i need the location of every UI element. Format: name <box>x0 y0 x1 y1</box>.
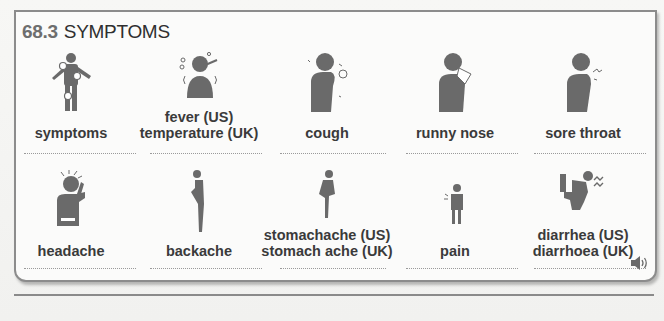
answer-line[interactable] <box>24 153 136 154</box>
vocab-item-symptoms: symptoms <box>11 52 131 152</box>
section-title: 68.3SYMPTOMS <box>22 21 170 43</box>
speaker-icon[interactable] <box>629 256 649 270</box>
vocab-label: cough <box>257 125 397 141</box>
cough-icon <box>303 52 351 112</box>
vocab-label-us: stomachache (US) <box>257 227 397 243</box>
fever-thermometer-icon <box>177 52 221 98</box>
headache-icon <box>51 170 91 226</box>
divider <box>14 294 654 296</box>
vocab-label: runny nose <box>385 125 525 141</box>
vocab-label-us: fever (US) <box>129 109 269 125</box>
answer-line[interactable] <box>150 268 262 269</box>
vocab-label-us: diarrhea (US) <box>513 227 653 243</box>
stomachache-icon <box>313 170 341 218</box>
section-heading: SYMPTOMS <box>64 21 170 42</box>
symptoms-vocab-box: 68.3SYMPTOMS symptoms <box>14 10 657 282</box>
runny-nose-tissue-icon <box>431 52 479 112</box>
section-number: 68.3 <box>22 21 58 42</box>
answer-line[interactable] <box>280 268 386 269</box>
diarrhea-toilet-icon <box>558 170 608 210</box>
vocab-label-uk: stomach ache (UK) <box>257 243 397 259</box>
body-pain-points-icon <box>49 52 93 114</box>
answer-line[interactable] <box>406 153 518 154</box>
sore-throat-icon <box>561 52 605 112</box>
backache-icon <box>187 170 211 232</box>
vocab-label: symptoms <box>1 125 141 141</box>
page: 68.3SYMPTOMS symptoms <box>0 0 664 321</box>
vocab-label: backache <box>129 243 269 259</box>
answer-line[interactable] <box>24 268 136 269</box>
answer-line[interactable] <box>406 268 518 269</box>
pain-icon <box>443 184 467 224</box>
answer-line[interactable] <box>280 153 386 154</box>
vocab-label: sore throat <box>513 125 653 141</box>
vocab-label: headache <box>1 243 141 259</box>
answer-line[interactable] <box>534 153 646 154</box>
vocab-label-uk: temperature (UK) <box>129 125 269 141</box>
answer-line[interactable] <box>150 153 262 154</box>
vocab-label: pain <box>385 243 525 259</box>
